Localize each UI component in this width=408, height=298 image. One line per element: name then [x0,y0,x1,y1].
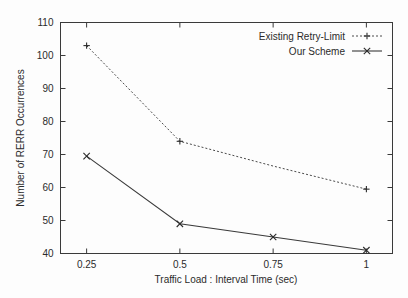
legend-label: Existing Retry-Limit [259,31,345,42]
y-tick-label: 70 [42,149,54,160]
plus-marker-icon [363,186,369,192]
y-tick-label: 40 [42,248,54,259]
x-tick-label: 0.5 [173,259,187,270]
y-tick-label: 100 [37,50,54,61]
series-line [87,46,367,190]
x-axis-title: Traffic Load : Interval Time (sec) [155,274,298,285]
series-markers [83,42,369,253]
y-tick-label: 90 [42,83,54,94]
series-lines [87,46,367,251]
plot-frame [61,23,393,254]
x-tick-label: 1 [364,259,370,270]
plus-marker-icon [83,42,89,48]
y-tick-label: 110 [38,17,54,28]
chart-plot-area: 405060708090100110 0.250.50.751 Existing… [0,0,408,298]
y-tick-label: 80 [42,116,54,127]
x-tick-label: 0.75 [263,259,283,270]
x-axis-ticks: 0.250.50.751 [77,23,370,270]
series-line [87,156,367,250]
chart-legend: Existing Retry-LimitOur Scheme [259,31,382,57]
y-axis-title: Number of RERR Occurrences [15,69,26,206]
legend-label: Our Scheme [289,46,346,57]
chart-figure: 405060708090100110 0.250.50.751 Existing… [0,0,408,298]
y-tick-label: 60 [42,182,54,193]
cross-marker-icon [83,153,89,159]
y-tick-label: 50 [42,215,54,226]
x-tick-label: 0.25 [77,259,97,270]
plus-marker-icon [177,138,183,144]
plus-marker-icon [364,33,370,39]
